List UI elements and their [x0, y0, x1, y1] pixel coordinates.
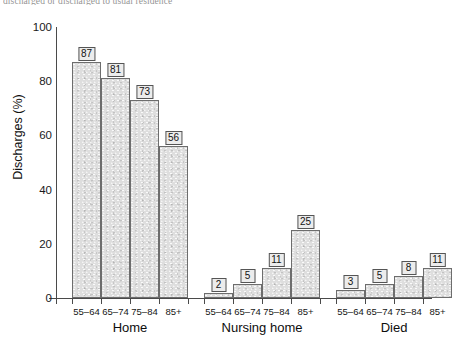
bar-nursinghome-75-84	[262, 268, 291, 298]
bar-label-home-85plus: 56	[165, 131, 182, 145]
bar-nursinghome-85plus	[291, 230, 320, 298]
x-label-nursinghome-65-74: 65–74	[234, 306, 260, 317]
y-axis-title: Discharges (%)	[11, 67, 25, 207]
y-tick-label-60: 60	[22, 130, 52, 142]
x-label-died-55-64: 55–64	[337, 306, 363, 317]
bar-label-died-85plus: 11	[429, 253, 445, 267]
x-tick-mark	[320, 299, 321, 304]
bar-nursinghome-65-74	[233, 284, 262, 298]
y-tick-label-20: 20	[22, 239, 52, 251]
bar-label-nursinghome-75-84: 11	[268, 253, 284, 267]
x-label-home-55-64: 55–64	[73, 306, 99, 317]
x-label-nursinghome-75-84: 75–84	[263, 306, 289, 317]
bar-died-75-84	[394, 276, 423, 298]
x-label-died-85plus: 85+	[429, 306, 445, 317]
x-tick-mark	[291, 299, 292, 304]
bar-died-65-74	[365, 284, 394, 298]
x-tick-mark	[233, 299, 234, 304]
x-label-home-65-74: 65–74	[102, 306, 128, 317]
x-tick-mark	[336, 299, 337, 304]
x-tick-mark	[130, 299, 131, 304]
x-tick-mark	[159, 299, 160, 304]
x-tick-mark	[204, 299, 205, 304]
y-tick-label-100: 100	[22, 22, 52, 34]
x-tick-mark	[72, 299, 73, 304]
bar-home-85plus	[159, 146, 188, 298]
x-axis-line	[49, 298, 432, 299]
bar-label-died-65-74: 5	[372, 269, 387, 283]
x-tick-mark	[365, 299, 366, 304]
plot-area: 87 81 73 56 2 5 11 25 3 5 8 11	[56, 27, 432, 298]
x-tick-mark	[423, 299, 424, 304]
bar-home-75-84	[130, 100, 159, 298]
x-label-home-75-84: 75–84	[131, 306, 157, 317]
bar-home-55-64	[72, 62, 101, 298]
x-label-home-85plus: 85+	[165, 306, 181, 317]
y-tick-label-40: 40	[22, 185, 52, 197]
bar-home-65-74	[101, 78, 130, 298]
bar-label-home-75-84: 73	[136, 85, 153, 99]
bar-label-nursinghome-55-64: 2	[211, 278, 226, 292]
bar-label-home-65-74: 81	[107, 63, 124, 77]
bar-label-home-55-64: 87	[78, 47, 95, 61]
group-label-nursing-home: Nursing home	[222, 320, 303, 335]
bar-label-died-55-64: 3	[343, 275, 358, 289]
bar-label-nursinghome-65-74: 5	[240, 269, 255, 283]
x-label-nursinghome-85plus: 85+	[297, 306, 313, 317]
group-label-home: Home	[113, 320, 148, 335]
x-tick-mark	[101, 299, 102, 304]
bar-label-nursinghome-85plus: 25	[297, 215, 314, 229]
y-tick-label-0: 0	[22, 293, 52, 305]
group-label-died: Died	[381, 320, 408, 335]
x-label-died-65-74: 65–74	[366, 306, 392, 317]
x-tick-mark	[394, 299, 395, 304]
bar-died-85plus	[423, 268, 452, 298]
x-tick-mark	[262, 299, 263, 304]
x-tick-mark	[188, 299, 189, 304]
bar-label-died-75-84: 8	[401, 261, 416, 275]
x-label-died-75-84: 75–84	[395, 306, 421, 317]
bar-nursinghome-55-64	[204, 293, 233, 298]
x-label-nursinghome-55-64: 55–64	[205, 306, 231, 317]
y-tick-label-80: 80	[22, 76, 52, 88]
bar-died-55-64	[336, 290, 365, 298]
x-tick-mark	[56, 299, 57, 304]
